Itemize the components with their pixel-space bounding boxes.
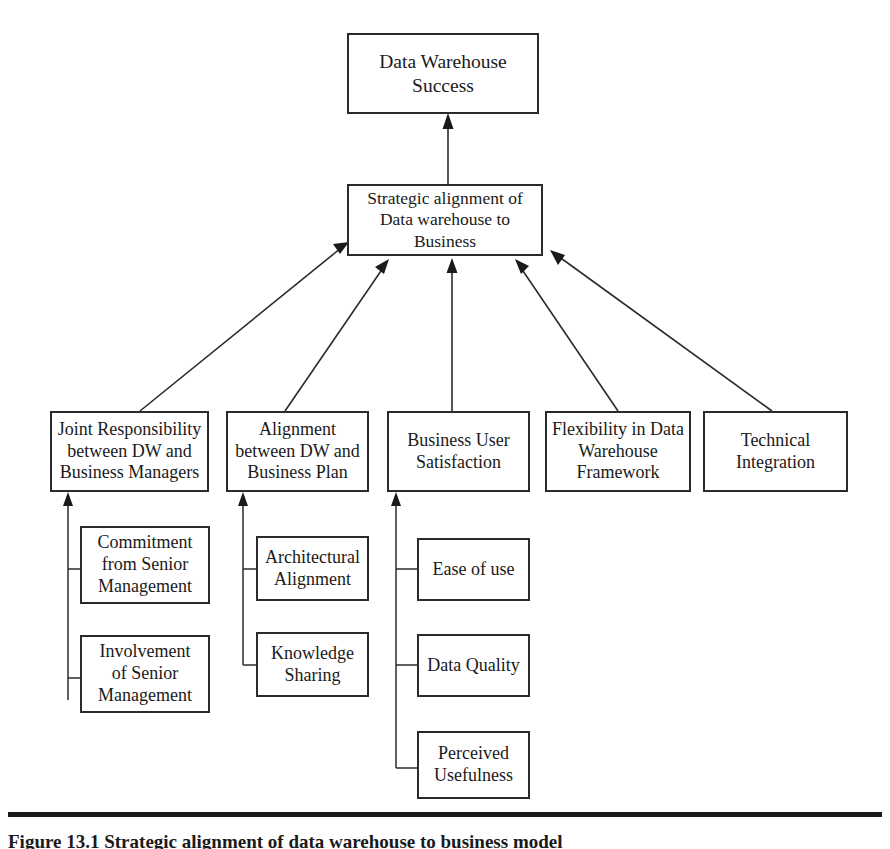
arrowhead-strategic-to-success [443,113,454,129]
node-architectural-alignment: Architectural Alignment [256,536,369,601]
figure-caption: Figure 13.1 Strategic alignment of data … [8,830,882,849]
node-technical-integration: Technical Integration [703,411,848,492]
node-label-data-warehouse-success: Data Warehouse Success [375,50,510,98]
node-label-involvement-senior-management: Involvement of Senior Management [94,641,196,707]
node-perceived-usefulness: Perceived Usefulness [417,731,530,799]
caption-divider-rule [8,812,882,817]
node-label-knowledge-sharing: Knowledge Sharing [267,643,358,687]
node-data-quality: Data Quality [417,634,530,697]
node-label-joint-responsibility: Joint Responsibility between DW and Busi… [54,419,206,485]
arrowhead-business-user-satisfaction [447,258,458,273]
diagram-canvas: Data Warehouse Success Strategic alignme… [0,0,890,849]
node-label-alignment-dw-business-plan: Alignment between DW and Business Plan [231,419,364,485]
arrowhead-alignment [375,259,389,274]
edge-technical-integration-to-strategic [558,256,772,411]
node-label-strategic-alignment: Strategic alignment of Data warehouse to… [363,188,527,252]
node-label-perceived-usefulness: Perceived Usefulness [430,743,517,787]
edge-joint-responsibility-to-strategic [140,248,341,411]
arrowhead-flexibility [515,259,529,274]
node-flexibility-dw-framework: Flexibility in Data Warehouse Framework [545,411,691,492]
edge-alignment-to-strategic [285,268,383,411]
arrowhead-technical-integration [550,250,565,265]
node-involvement-senior-management: Involvement of Senior Management [80,635,210,713]
node-business-user-satisfaction: Business User Satisfaction [387,411,530,492]
node-label-business-user-satisfaction: Business User Satisfaction [403,430,514,474]
node-label-technical-integration: Technical Integration [732,430,819,474]
node-alignment-dw-business-plan: Alignment between DW and Business Plan [226,411,369,492]
arrowhead-trunk-joint-responsibility [63,492,73,506]
node-ease-of-use: Ease of use [417,538,530,601]
node-knowledge-sharing: Knowledge Sharing [256,632,369,697]
node-label-architectural-alignment: Architectural Alignment [261,547,364,591]
node-label-flexibility-dw-framework: Flexibility in Data Warehouse Framework [548,419,688,485]
edge-flexibility-to-strategic [521,268,618,411]
node-strategic-alignment: Strategic alignment of Data warehouse to… [347,184,543,256]
arrowhead-trunk-business-user-satisfaction [391,492,401,506]
node-joint-responsibility: Joint Responsibility between DW and Busi… [50,411,209,492]
node-commitment-senior-management: Commitment from Senior Management [80,526,210,604]
node-label-ease-of-use: Ease of use [429,559,519,581]
node-label-commitment-senior-management: Commitment from Senior Management [93,532,196,598]
arrowhead-trunk-alignment [238,492,248,506]
node-label-data-quality: Data Quality [423,655,523,677]
node-data-warehouse-success: Data Warehouse Success [347,33,539,114]
